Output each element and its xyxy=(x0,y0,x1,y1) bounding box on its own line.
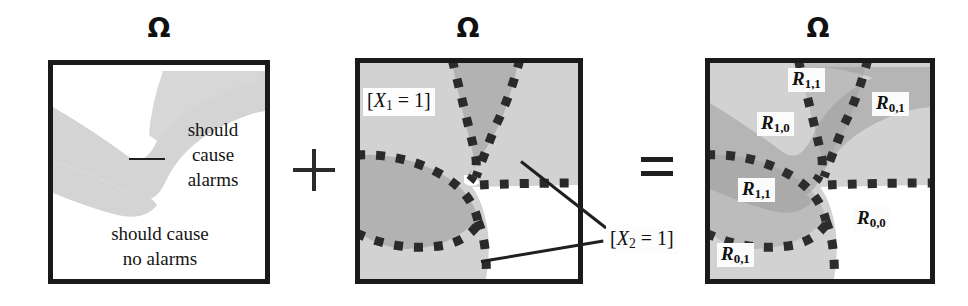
omega-symbol-right: Ω xyxy=(793,14,843,41)
r11top-base: R xyxy=(792,68,805,89)
r01top-sub: 0,1 xyxy=(889,100,905,115)
r01bot-sub: 0,1 xyxy=(734,251,750,266)
panel-right: Ω xyxy=(0,0,968,306)
region-label-r-0-1-top: R0,1 xyxy=(872,92,909,116)
r00-sub: 0,0 xyxy=(870,215,886,230)
figure-root: Ω should cause alarms should cause no a xyxy=(0,0,968,306)
region-label-r-0-1-bottom: R0,1 xyxy=(717,243,754,267)
region-label-r-0-0: R0,0 xyxy=(853,207,890,231)
r01top-base: R xyxy=(876,92,889,113)
r11mid-sub: 1,1 xyxy=(755,186,771,201)
r11mid-base: R xyxy=(742,178,755,199)
region-label-r-1-1-top: R1,1 xyxy=(788,68,825,92)
r00-base: R xyxy=(857,207,870,228)
r11top-sub: 1,1 xyxy=(805,76,821,91)
r10-base: R xyxy=(761,112,774,133)
region-label-r-1-1-mid: R1,1 xyxy=(738,178,775,202)
region-label-r-1-0: R1,0 xyxy=(757,112,794,136)
r10-sub: 1,0 xyxy=(774,120,790,135)
r01bot-base: R xyxy=(721,243,734,264)
